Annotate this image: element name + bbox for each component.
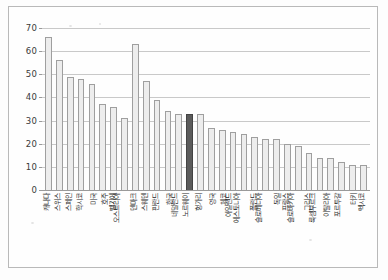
x-label-cell: 슬로베니아	[260, 192, 271, 254]
x-label-cell: 오스트리아	[119, 192, 130, 254]
bar-cell	[43, 28, 54, 190]
x-label-cell: 캐나다	[43, 192, 54, 254]
x-label-cell: 학시코	[76, 192, 87, 254]
x-tick-label: 스페인	[65, 193, 73, 211]
x-tick-label: 슬로베니아	[255, 193, 263, 223]
y-tick-label-50: 50	[26, 69, 37, 79]
x-label-cell: 덴마크	[130, 192, 141, 254]
x-tick-label: 네덜란드	[171, 193, 179, 217]
bar-series	[42, 28, 370, 190]
bar	[230, 132, 237, 190]
bar-cell	[184, 28, 195, 190]
bar	[99, 104, 106, 190]
bar	[165, 111, 172, 190]
bar-cell	[54, 28, 65, 190]
bar	[262, 139, 269, 190]
x-tick-label: 포르투갈	[334, 193, 342, 217]
bar-cell	[282, 28, 293, 190]
bar	[360, 165, 367, 190]
plot-area: 010203040506070	[42, 28, 370, 190]
bar-cell	[195, 28, 206, 190]
x-tick-label: 스위스	[54, 193, 62, 211]
x-label-cell: 헝가리	[195, 192, 206, 254]
bar	[306, 153, 313, 190]
bar-cell	[206, 28, 217, 190]
bar-cell	[76, 28, 87, 190]
bar	[89, 84, 96, 190]
x-tick-label: 핀란드	[152, 193, 160, 211]
x-label-cell: 멕시코	[358, 192, 369, 254]
bar-cell	[65, 28, 76, 190]
x-tick-label: 헝가리	[195, 193, 203, 211]
bar	[154, 100, 161, 190]
bar	[78, 79, 85, 190]
x-tick-label: 오스트리아	[113, 193, 121, 223]
x-label-cell: 에스토니아	[238, 192, 249, 254]
scan-speck	[31, 222, 34, 224]
x-tick-label: 노르웨이	[182, 193, 190, 217]
bar	[327, 158, 334, 190]
bar	[56, 60, 63, 190]
x-label-cell: 미국	[86, 192, 97, 254]
bar-cell	[130, 28, 141, 190]
x-tick-label: 캐나다	[43, 193, 51, 211]
bar-cell	[358, 28, 369, 190]
x-label-cell: 독일	[271, 192, 282, 254]
x-label-cell: 터키	[347, 192, 358, 254]
x-tick-label: 덴마크	[130, 193, 138, 211]
x-label-cell: 호주	[97, 192, 108, 254]
bar	[110, 107, 117, 190]
x-label-cell: 포르투갈	[336, 192, 347, 254]
x-tick-label: 이탈리아	[323, 193, 331, 217]
bar	[241, 134, 248, 190]
bar	[338, 162, 345, 190]
x-label-cell: 노르웨이	[184, 192, 195, 254]
bar	[295, 146, 302, 190]
bar-cell	[314, 28, 325, 190]
y-tick-label-60: 60	[26, 46, 37, 56]
x-label-cell: 스위스	[54, 192, 65, 254]
bar-cell	[347, 28, 358, 190]
chart-figure: 010203040506070 캐나다스위스스페인학시코미국호주벨기에오스트리아…	[0, 0, 388, 280]
x-axis-labels: 캐나다스위스스페인학시코미국호주벨기에오스트리아덴마크스웨덴핀란드한국네덜란드노…	[42, 192, 370, 254]
bar	[121, 118, 128, 190]
y-tick-label-10: 10	[26, 162, 37, 172]
y-tick-label-20: 20	[26, 139, 37, 149]
bar-cell	[162, 28, 173, 190]
bar	[197, 114, 204, 190]
y-tick-label-30: 30	[26, 116, 37, 126]
y-tick-mark-0	[39, 190, 42, 191]
bar-cell	[141, 28, 152, 190]
x-tick-label: 멕시코	[358, 193, 366, 211]
bar-cell	[97, 28, 108, 190]
bar-cell	[325, 28, 336, 190]
x-label-cell: 스페인	[65, 192, 76, 254]
bar-cell	[249, 28, 260, 190]
bar-cell	[238, 28, 249, 190]
bar-cell	[260, 28, 271, 190]
bar-cell	[173, 28, 184, 190]
x-label-cell: 슬로바키아	[293, 192, 304, 254]
x-tick-label: 스웨덴	[141, 193, 149, 211]
bar-highlighted	[186, 114, 193, 190]
bar	[143, 81, 150, 190]
scan-speck	[99, 23, 101, 25]
x-tick-label: 학시코	[76, 193, 84, 211]
bar	[219, 130, 226, 190]
y-tick-label-40: 40	[26, 92, 37, 102]
x-tick-label: 룩셈부르크	[309, 193, 317, 223]
bar-cell	[293, 28, 304, 190]
bar	[208, 128, 215, 190]
bar	[273, 139, 280, 190]
bar	[67, 77, 74, 190]
bar-cell	[336, 28, 347, 190]
y-tick-label-70: 70	[26, 23, 37, 33]
x-label-cell: 스웨덴	[141, 192, 152, 254]
bar	[251, 137, 258, 190]
x-label-cell: 영국	[206, 192, 217, 254]
bar-cell	[304, 28, 315, 190]
x-label-cell: 핀란드	[152, 192, 163, 254]
gridline-0	[42, 190, 370, 191]
bar-cell	[119, 28, 130, 190]
x-tick-label: 아일랜드	[225, 193, 233, 217]
